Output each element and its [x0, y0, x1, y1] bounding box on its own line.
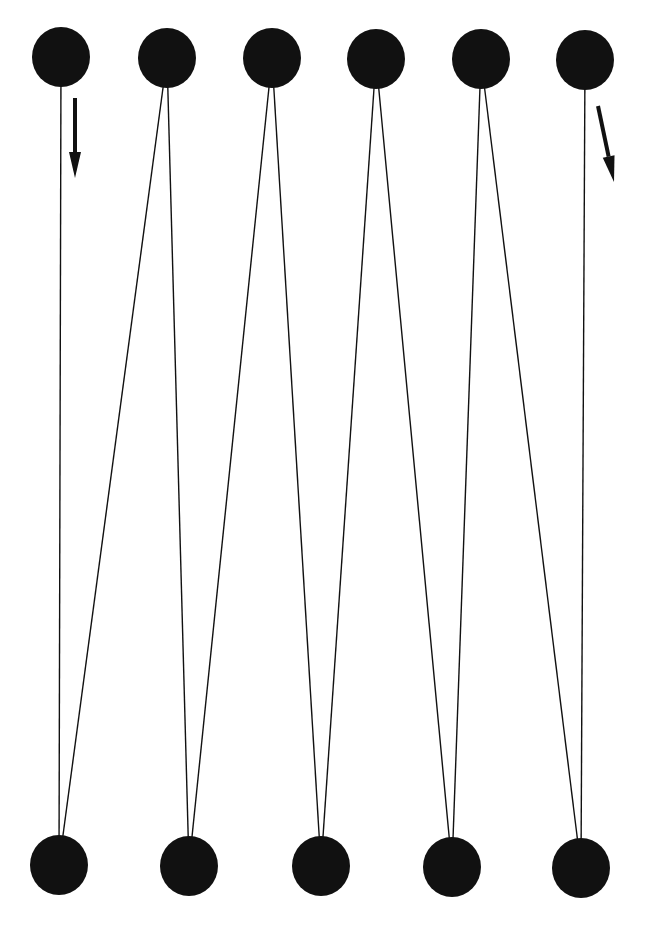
bottom-node-5 [552, 838, 610, 898]
edge-B4-T5 [452, 59, 481, 867]
zigzag-path-diagram [0, 0, 646, 934]
top-node-3 [243, 28, 301, 88]
top-node-5 [452, 29, 510, 89]
edge-T5-B5 [481, 59, 581, 868]
nodes-group [30, 27, 614, 898]
edge-T2-B2 [167, 58, 189, 866]
bottom-node-2 [160, 836, 218, 896]
bottom-node-1 [30, 835, 88, 895]
edge-B1-T2 [59, 58, 167, 865]
edge-T1-B1 [59, 57, 61, 865]
top-node-1 [32, 27, 90, 87]
end-direction-arrow-icon [598, 106, 615, 182]
bottom-node-4 [423, 837, 481, 897]
edge-B3-T4 [321, 59, 376, 866]
edges-group [59, 57, 585, 868]
edge-B2-T3 [189, 58, 272, 866]
edge-T3-B3 [272, 58, 321, 866]
top-node-6 [556, 30, 614, 90]
edge-B5-T6 [581, 60, 585, 868]
edge-T4-B4 [376, 59, 452, 867]
top-node-2 [138, 28, 196, 88]
start-direction-arrow-icon [69, 98, 81, 178]
arrows-group [69, 98, 615, 182]
bottom-node-3 [292, 836, 350, 896]
top-node-4 [347, 29, 405, 89]
